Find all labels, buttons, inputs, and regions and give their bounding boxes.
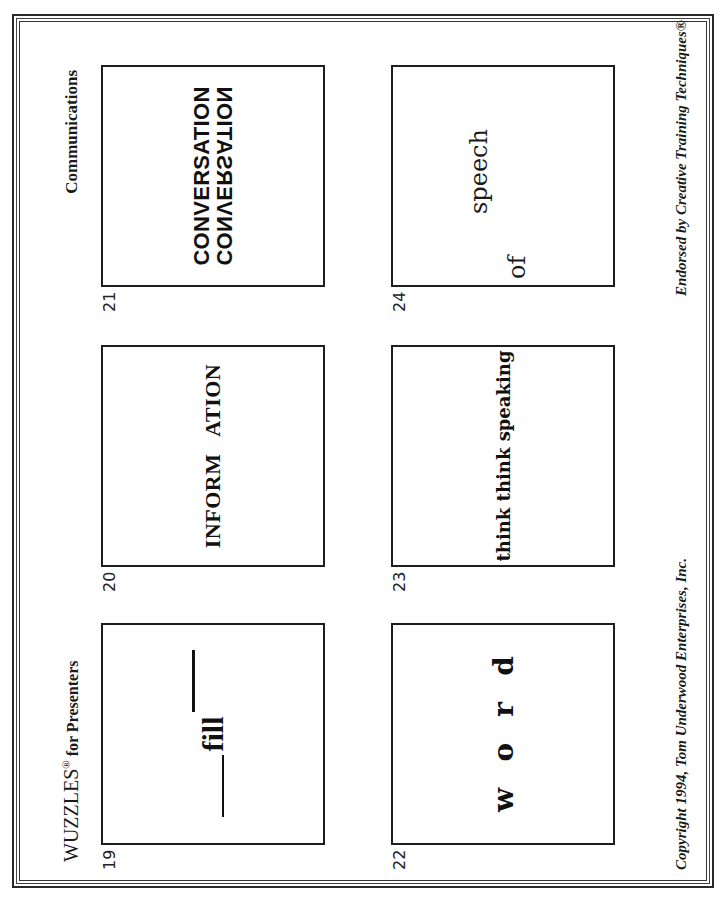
puzzle-text-19: fill xyxy=(196,713,230,756)
blank-line-after xyxy=(192,651,195,713)
wuzzles-page: WUZZLES® for Presenters Communications 1… xyxy=(0,0,726,902)
conversation-mirrored-line: CONVERSATION xyxy=(213,86,235,265)
puzzle-number-20: 20 xyxy=(100,572,119,592)
puzzle-box-20: INFORM ATION xyxy=(101,345,325,567)
puzzle-box-19: fill xyxy=(101,623,325,845)
letter-o: o xyxy=(487,743,520,762)
conversation-puzzle: CONVERSATION CONVERSATION xyxy=(191,86,235,265)
word-speech: speech xyxy=(465,129,493,214)
title-main: WUZZLES xyxy=(60,769,82,862)
puzzle-box-23: think think speaking xyxy=(391,345,615,567)
conversation-line: CONVERSATION xyxy=(191,86,213,265)
fill-puzzle: fill xyxy=(196,651,230,818)
title-rest: for Presenters xyxy=(64,661,81,761)
puzzle-box-21: CONVERSATION CONVERSATION xyxy=(101,65,325,287)
puzzle-box-22: w o r d xyxy=(391,623,615,845)
header-title: WUZZLES® for Presenters xyxy=(60,661,83,862)
letter-w: w xyxy=(487,788,520,812)
speech-puzzle: of speech xyxy=(393,67,613,285)
section-title: Communications xyxy=(62,70,82,194)
blank-line-before xyxy=(222,756,225,818)
puzzle-number-24: 24 xyxy=(390,292,409,312)
registered-mark: ® xyxy=(60,760,72,768)
puzzle-box-24: of speech xyxy=(391,65,615,287)
puzzle-number-22: 22 xyxy=(390,850,409,870)
puzzle-text-20: INFORM ATION xyxy=(200,364,226,548)
copyright-text: Copyright 1994, Tom Underwood Enterprise… xyxy=(673,558,690,870)
letter-d: d xyxy=(487,656,520,676)
puzzle-text-23: think think speaking xyxy=(493,351,514,562)
puzzle-number-19: 19 xyxy=(100,850,119,870)
letter-r: r xyxy=(487,702,520,717)
word-of: of xyxy=(503,256,531,279)
puzzle-number-21: 21 xyxy=(100,292,119,312)
endorsement-text: Endorsed by Creative Training Techniques… xyxy=(673,20,690,296)
word-puzzle: w o r d xyxy=(487,625,520,843)
puzzle-number-23: 23 xyxy=(390,572,409,592)
